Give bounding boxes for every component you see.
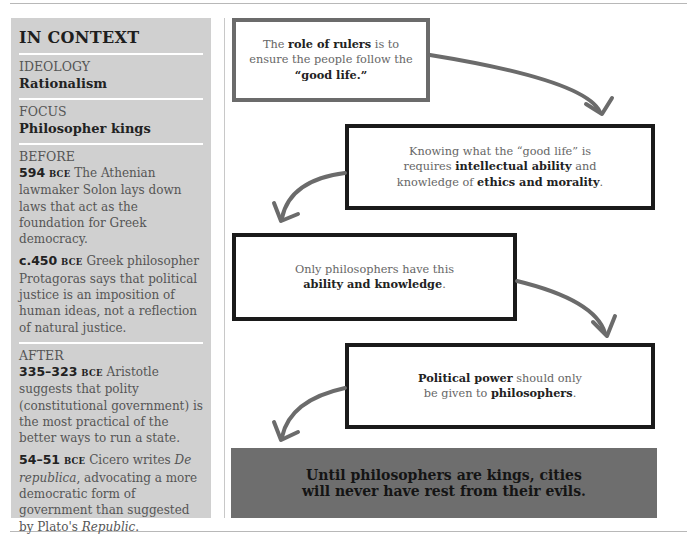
flow-box-text: Only philosophers have this ability and … bbox=[290, 262, 460, 293]
bold-text: intellectual ability bbox=[455, 159, 571, 173]
before-entry: c.450 BCE Greek philosopher Protagoras s… bbox=[19, 253, 203, 335]
curved-arrow-icon bbox=[430, 55, 612, 114]
conclusion-line: Until philosophers are kings, cities bbox=[302, 467, 586, 484]
flow-box-role-of-rulers: The role of rulers is to ensure the peop… bbox=[232, 18, 430, 102]
flow-box-text: The role of rulers is to ensure the peop… bbox=[246, 37, 416, 84]
entry-date: 335–323 bbox=[19, 364, 77, 379]
flow-box-political-power: Political power should only be given to … bbox=[345, 343, 655, 429]
bold-text: Political power bbox=[418, 371, 513, 385]
text: Only philosophers have this bbox=[295, 263, 454, 276]
entry-era: BCE bbox=[49, 169, 71, 179]
before-label: BEFORE bbox=[19, 149, 203, 165]
conclusion-text: Until philosophers are kings, cities wil… bbox=[302, 467, 586, 500]
ideology-section: IDEOLOGY Rationalism bbox=[19, 55, 203, 100]
flow-box-only-philosophers: Only philosophers have this ability and … bbox=[232, 233, 517, 321]
sidebar-title: IN CONTEXT bbox=[19, 18, 203, 55]
text: The bbox=[263, 38, 288, 51]
entry-era: BCE bbox=[61, 257, 83, 267]
focus-value: Philosopher kings bbox=[19, 120, 203, 137]
flow-box-text: Political power should only be given to … bbox=[410, 371, 590, 402]
flow-box-text: Knowing what the “good life” is requires… bbox=[390, 144, 610, 191]
after-entry: 335–323 BCE Aristotle suggests that poli… bbox=[19, 364, 203, 446]
text: . bbox=[573, 387, 577, 400]
entry-date: c.450 bbox=[19, 253, 57, 268]
after-entry: 54–51 BCE Cicero writes De republica, ad… bbox=[19, 452, 203, 534]
conclusion-banner: Until philosophers are kings, cities wil… bbox=[231, 448, 657, 518]
column-divider bbox=[224, 18, 225, 518]
curved-arrow-icon bbox=[517, 281, 615, 336]
curved-arrow-icon bbox=[274, 173, 345, 221]
entry-italic-title: Republic bbox=[82, 520, 136, 534]
ideology-label: IDEOLOGY bbox=[19, 59, 203, 75]
focus-section: FOCUS Philosopher kings bbox=[19, 100, 203, 145]
bold-text: ethics and morality bbox=[477, 175, 600, 189]
ideology-value: Rationalism bbox=[19, 75, 203, 92]
entry-date: 594 bbox=[19, 165, 45, 180]
top-rule bbox=[10, 3, 687, 4]
bold-text: role of rulers bbox=[288, 37, 371, 51]
entry-text: Cicero writes bbox=[85, 453, 174, 467]
bold-text: philosophers bbox=[491, 386, 573, 400]
entry-era: BCE bbox=[81, 368, 103, 378]
focus-label: FOCUS bbox=[19, 104, 203, 120]
curved-arrow-icon bbox=[274, 388, 345, 440]
conclusion-line: will never have rest from their evils. bbox=[302, 483, 586, 500]
flow-box-knowing-good-life: Knowing what the “good life” is requires… bbox=[345, 124, 655, 210]
entry-date: 54–51 bbox=[19, 452, 60, 467]
before-entry: 594 BCE The Athenian lawmaker Solon lays… bbox=[19, 165, 203, 247]
after-section: AFTER 335–323 BCE Aristotle suggests tha… bbox=[19, 344, 203, 537]
entry-era: BCE bbox=[64, 456, 86, 466]
text: . bbox=[442, 278, 446, 291]
text: . bbox=[600, 176, 604, 189]
entry-text: . bbox=[135, 520, 139, 534]
bold-text: “good life.” bbox=[295, 68, 367, 82]
before-section: BEFORE 594 BCE The Athenian lawmaker Sol… bbox=[19, 145, 203, 344]
bold-text: ability and knowledge bbox=[303, 277, 442, 291]
after-label: AFTER bbox=[19, 348, 203, 364]
in-context-sidebar: IN CONTEXT IDEOLOGY Rationalism FOCUS Ph… bbox=[11, 18, 211, 518]
